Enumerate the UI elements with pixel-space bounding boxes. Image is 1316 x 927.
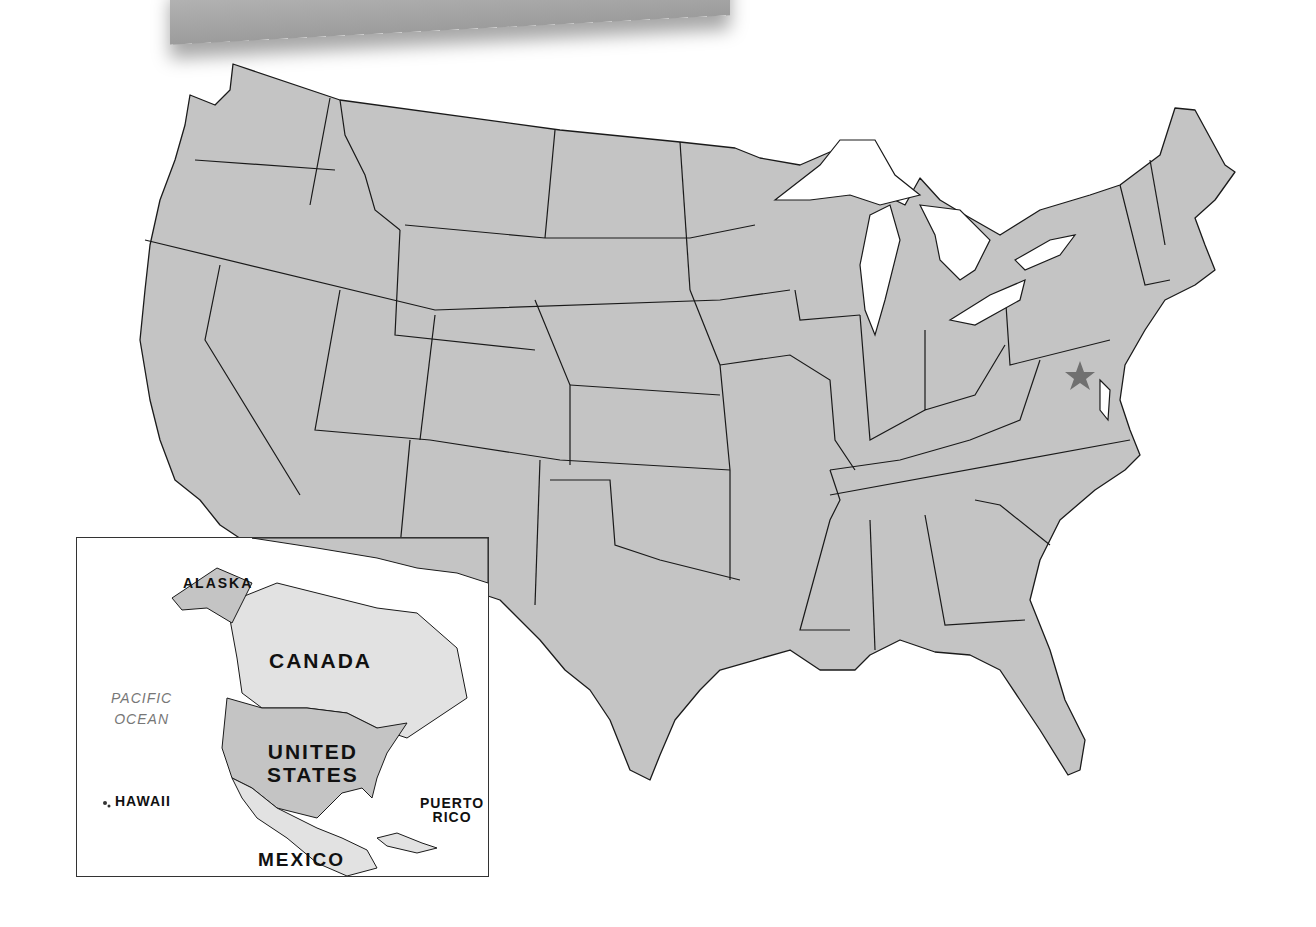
label-canada: CANADA	[269, 650, 372, 671]
label-mexico: MEXICO	[258, 850, 345, 869]
north-america-inset: ALASKA CANADA PACIFIC OCEAN UNITED STATE…	[76, 537, 489, 877]
label-pacific-ocean: PACIFIC OCEAN	[111, 688, 172, 730]
label-puerto-rico: PUERTO RICO	[420, 796, 484, 824]
label-united-states: UNITED STATES	[267, 741, 359, 785]
caribbean-shape	[377, 833, 437, 853]
label-alaska: ALASKA	[183, 576, 253, 590]
russia-shape	[252, 538, 488, 583]
hawaii-islands	[103, 801, 107, 805]
label-hawaii: HAWAII	[115, 794, 171, 808]
